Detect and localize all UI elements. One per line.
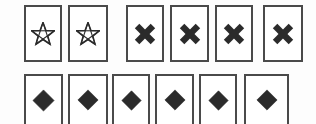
card-diamond-filled[interactable]	[68, 74, 108, 124]
diamond-filled-icon	[256, 89, 278, 111]
card-grid-canvas	[0, 0, 316, 124]
card-diamond-filled[interactable]	[112, 74, 150, 124]
card-diamond-filled[interactable]	[24, 74, 63, 124]
diamond-filled-icon	[121, 90, 142, 111]
x-mark-icon	[133, 22, 157, 46]
card-diamond-filled[interactable]	[199, 74, 237, 124]
diamond-filled-icon	[164, 89, 186, 111]
card-star-outline[interactable]	[68, 5, 108, 62]
card-x-mark[interactable]	[126, 5, 164, 62]
card-x-mark[interactable]	[263, 5, 303, 62]
card-diamond-filled[interactable]	[244, 74, 289, 124]
diamond-filled-icon	[32, 89, 55, 112]
card-diamond-filled[interactable]	[155, 74, 194, 124]
x-mark-icon	[178, 22, 202, 46]
x-mark-icon	[271, 22, 295, 46]
card-star-outline[interactable]	[24, 5, 62, 62]
diamond-filled-icon	[77, 89, 99, 111]
diamond-filled-icon	[208, 90, 229, 111]
x-mark-icon	[222, 22, 246, 46]
star-outline-icon	[76, 22, 100, 46]
card-x-mark[interactable]	[215, 5, 253, 62]
card-x-mark[interactable]	[170, 5, 209, 62]
star-outline-icon	[31, 22, 55, 46]
